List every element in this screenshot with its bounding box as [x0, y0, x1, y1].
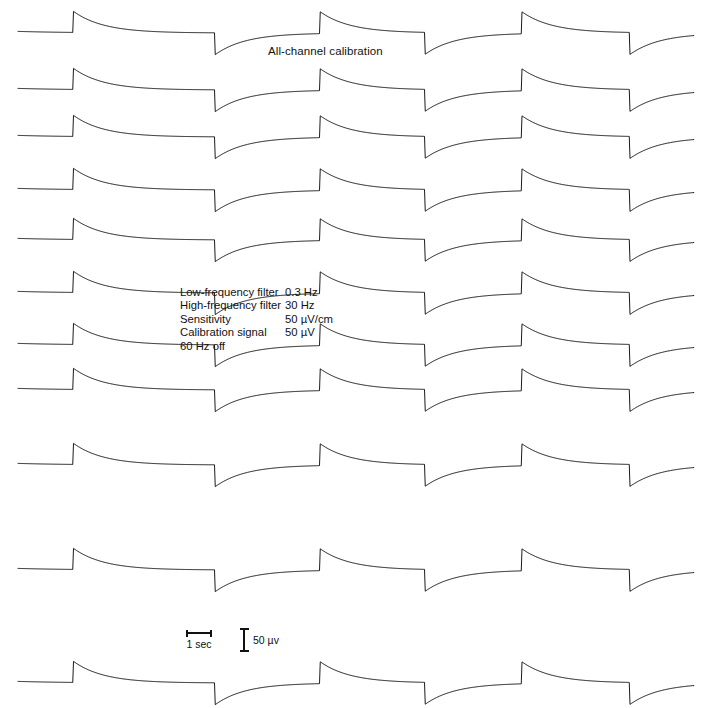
parameter-row-sensitivity: Sensitivity 50 µV/cm	[180, 313, 333, 326]
parameter-label: Sensitivity	[180, 313, 285, 326]
eeg-channel-trace	[18, 443, 694, 486]
eeg-channel-trace	[18, 271, 694, 314]
time-scale-bar-icon	[186, 630, 212, 637]
parameter-row-notch-filter: 60 Hz off	[180, 340, 333, 353]
eeg-channel-trace	[18, 115, 694, 158]
parameter-row-calibration-signal: Calibration signal 50 µV	[180, 326, 333, 339]
scale-bar-legend: 1 sec 50 µv	[180, 624, 340, 660]
amplitude-scale-bar-label: 50 µv	[253, 634, 279, 646]
parameter-value: 50 µV/cm	[285, 313, 333, 326]
eeg-channel-trace	[18, 368, 694, 411]
eeg-channel-trace	[18, 168, 694, 211]
eeg-channel-trace	[18, 68, 694, 111]
parameter-label: High-frequency filter	[180, 299, 285, 312]
eeg-channel-trace	[18, 323, 694, 366]
eeg-channel-trace	[18, 661, 694, 704]
parameter-row-low-frequency-filter: Low-frequency filter 0.3 Hz	[180, 286, 333, 299]
amplitude-scale-bar: 50 µv	[240, 628, 279, 652]
parameter-value: 50 µV	[285, 326, 315, 339]
parameter-label: Calibration signal	[180, 326, 285, 339]
amplitude-scale-bar-icon	[240, 628, 249, 652]
recording-parameters-block: Low-frequency filter 0.3 Hz High-frequen…	[180, 286, 333, 353]
eeg-channel-trace	[18, 218, 694, 261]
parameter-value: 0.3 Hz	[285, 286, 318, 299]
parameter-row-high-frequency-filter: High-frequency filter 30 Hz	[180, 299, 333, 312]
time-scale-bar: 1 sec	[186, 630, 214, 650]
eeg-trace-canvas	[0, 0, 708, 708]
page-title: All-channel calibration	[268, 45, 383, 57]
time-scale-bar-label: 1 sec	[184, 638, 214, 650]
parameter-note: 60 Hz off	[180, 340, 225, 353]
parameter-value: 30 Hz	[285, 299, 315, 312]
parameter-label: Low-frequency filter	[180, 286, 285, 299]
eeg-channel-trace	[18, 548, 694, 591]
eeg-calibration-figure: All-channel calibration Low-frequency fi…	[0, 0, 708, 708]
